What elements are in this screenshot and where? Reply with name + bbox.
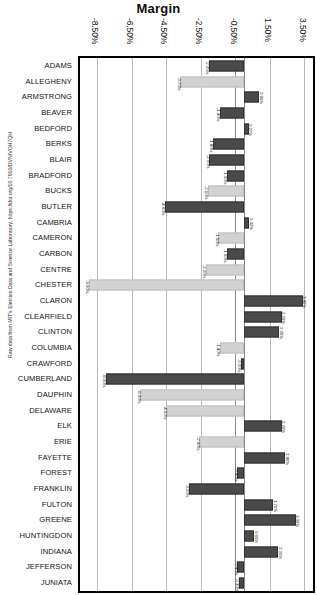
bar-value-label: 0.27% <box>248 124 253 136</box>
bar[interactable] <box>227 170 244 181</box>
bar-value-label: -1.40% <box>216 108 221 121</box>
bar[interactable] <box>208 186 244 197</box>
bar[interactable] <box>244 515 296 526</box>
bar[interactable] <box>199 437 244 448</box>
bar-value-label: -9.00% <box>85 280 90 293</box>
bar[interactable] <box>106 374 244 385</box>
bar-row: -4.60% <box>80 199 313 215</box>
bar[interactable] <box>140 390 244 401</box>
bar-row: 3.40% <box>80 293 313 309</box>
category-label: CLARON <box>40 296 72 305</box>
bar-value-label: -0.30% <box>235 578 240 591</box>
category-label: CLEARFIELD <box>24 312 72 321</box>
bar[interactable] <box>220 343 244 354</box>
x-tick-label: -8.50% <box>90 18 100 44</box>
bar[interactable] <box>244 295 303 306</box>
category-label: INDIANA <box>40 547 72 556</box>
bar-value-label: -1.00% <box>223 249 228 262</box>
category-label: BUTLER <box>41 202 72 211</box>
page-title: Margin <box>0 1 317 16</box>
category-label: GREENE <box>39 515 72 524</box>
bar-row: -0.40% <box>80 466 313 482</box>
bar-row: -1.40% <box>80 340 313 356</box>
bar[interactable] <box>206 264 244 275</box>
bar-row: -0.40% <box>80 560 313 576</box>
bar-value-label: -2.60% <box>195 437 200 450</box>
bar-value-label: -1.40% <box>216 343 221 356</box>
bar[interactable] <box>244 499 273 510</box>
chart-page: Margin Raw data from MIT's Election Data… <box>0 0 317 595</box>
category-label: CARBON <box>39 249 72 258</box>
x-tick-label: -6.50% <box>125 18 135 44</box>
bar-row: -1.50% <box>80 230 313 246</box>
category-label: FOREST <box>41 468 72 477</box>
bar-row: -2.10% <box>80 183 313 199</box>
bar[interactable] <box>166 405 244 416</box>
bar[interactable] <box>244 92 260 103</box>
bar-row: -6.00% <box>80 387 313 403</box>
category-label: HUNTINGDON <box>20 531 72 540</box>
bar-row: -3.20% <box>80 481 313 497</box>
x-tick-label: -2.50% <box>194 18 204 44</box>
bar-row: -1.00% <box>80 168 313 184</box>
bar-row: -1.80% <box>80 136 313 152</box>
bar-value-label: -4.60% <box>161 202 166 215</box>
x-tick-label: -4.50% <box>159 18 169 44</box>
bar-value-label: 2.00% <box>277 547 282 559</box>
category-label: ARMSTRONG <box>22 92 72 101</box>
category-label: CUMBERLAND <box>18 374 72 383</box>
bar-row: 2.05% <box>80 325 313 341</box>
category-label: FAYETTE <box>38 453 72 462</box>
bar-value-label: 2.40% <box>284 453 289 465</box>
bar[interactable] <box>244 311 282 322</box>
bar-value-label: 0.32% <box>248 218 253 230</box>
category-axis: ADAMSALLEGHENYARMSTRONGBEAVERBEDFORDBERK… <box>0 56 76 593</box>
bar[interactable] <box>213 139 244 150</box>
bar[interactable] <box>165 201 244 212</box>
bar-row: -0.30% <box>80 575 313 591</box>
category-label: FRANKLIN <box>34 484 72 493</box>
category-label: ERIE <box>54 437 72 446</box>
bar[interactable] <box>239 578 244 589</box>
bar-value-label: 3.40% <box>302 296 307 308</box>
bar-value-label: -8.00% <box>102 374 107 387</box>
bar[interactable] <box>189 484 244 495</box>
category-label: JEFFERSON <box>26 562 72 571</box>
bar-row: 2.40% <box>80 450 313 466</box>
bar[interactable] <box>244 327 279 338</box>
bar-row: 0.90% <box>80 89 313 105</box>
bar-value-label: -2.20% <box>202 265 207 278</box>
bar[interactable] <box>244 452 285 463</box>
category-label: DELAWARE <box>29 406 72 415</box>
bar[interactable] <box>218 233 244 244</box>
bar[interactable] <box>244 546 279 557</box>
bar[interactable] <box>209 60 244 71</box>
bar[interactable] <box>220 107 244 118</box>
bar-value-label: 3.00% <box>295 515 300 527</box>
bar-row: 2.20% <box>80 419 313 435</box>
bar-row: -4.50% <box>80 403 313 419</box>
category-label: ALLEGHENY <box>26 77 72 86</box>
category-label: BERKS <box>46 139 72 148</box>
plot-area: -2.05%-3.70%0.90%-1.40%0.27%-1.80%-2.00%… <box>78 56 315 593</box>
x-tick-label: 1.50% <box>263 18 273 42</box>
category-label: BLAIR <box>50 155 72 164</box>
bar[interactable] <box>209 154 244 165</box>
bar[interactable] <box>244 421 282 432</box>
bar-row: -9.00% <box>80 277 313 293</box>
bar[interactable] <box>89 280 244 291</box>
category-label: ADAMS <box>44 61 72 70</box>
bar[interactable] <box>180 76 244 87</box>
category-label: CLINTON <box>38 327 72 336</box>
bar-value-label: 1.70% <box>272 500 277 512</box>
bar[interactable] <box>227 248 244 259</box>
bar-value-label: -1.00% <box>223 171 228 184</box>
bar-value-label: -4.50% <box>162 406 167 419</box>
bar-value-label: -2.05% <box>205 61 210 74</box>
bar-value-label: 0.60% <box>253 531 258 543</box>
x-tick-label: -0.50% <box>229 18 239 44</box>
bar-row: -2.20% <box>80 262 313 278</box>
bar-value-label: -0.40% <box>233 468 238 481</box>
bar-row: 2.20% <box>80 309 313 325</box>
bar-value-label: 0.90% <box>258 92 263 104</box>
